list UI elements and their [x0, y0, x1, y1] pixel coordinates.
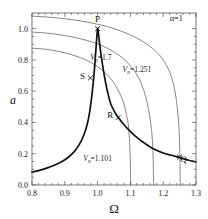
curve-label-value: =1.251: [130, 65, 152, 74]
y-tick-label-0.8: 0.8: [18, 56, 28, 65]
x-tick-label-1.2: 1.2: [158, 189, 168, 198]
y-tick-label-0.6: 0.6: [18, 87, 28, 96]
curve-label-value: =1.7: [98, 53, 112, 62]
y-axis-title: a: [10, 93, 16, 107]
curve-label-v17: Vn=1.7: [90, 53, 111, 63]
curve-label-v1101: Vn=1.101: [83, 154, 112, 164]
chart-background: [0, 0, 208, 219]
y-tick-label-0.2: 0.2: [18, 150, 28, 159]
y-tick-label-1.0: 1.0: [18, 25, 28, 34]
curve-label-value: =1.101: [91, 154, 113, 163]
point-label-Q: Q: [180, 154, 187, 164]
point-label-R: R: [107, 110, 113, 120]
x-tick-label-0.8: 0.8: [27, 189, 37, 198]
point-label-S: S: [80, 71, 85, 81]
curve-label-v1251: Vn=1.251: [123, 65, 152, 75]
y-tick-label-0.4: 0.4: [18, 118, 28, 127]
chart-figure: 0.80.91.01.11.21.3 0.00.20.40.60.81.0 PS…: [0, 0, 208, 219]
point-label-P: P: [95, 14, 100, 24]
chart-canvas: 0.80.91.01.11.21.3 0.00.20.40.60.81.0 PS…: [0, 0, 208, 219]
x-tick-label-1.1: 1.1: [125, 189, 135, 198]
alpha-annotation: α=1: [170, 14, 183, 23]
x-axis-title: Ω: [109, 201, 119, 216]
x-tick-label-0.9: 0.9: [60, 189, 70, 198]
y-tick-label-0.0: 0.0: [18, 181, 28, 190]
x-tick-label-1.3: 1.3: [191, 189, 201, 198]
x-tick-label-1.0: 1.0: [93, 189, 103, 198]
